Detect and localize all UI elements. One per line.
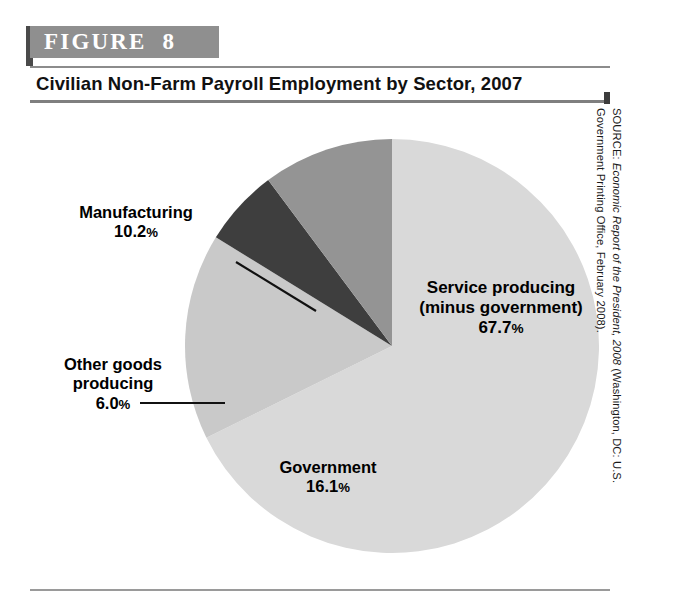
other-goods-value: 6.0% bbox=[18, 394, 208, 413]
source-note: SOURCE: Economic Report of the President… bbox=[582, 108, 624, 578]
figure-banner: FIGURE 8 bbox=[30, 26, 219, 58]
figure-title: Civilian Non-Farm Payroll Employment by … bbox=[36, 70, 606, 98]
footer-rule bbox=[30, 589, 610, 591]
other-goods-name-line1: Other goods bbox=[18, 355, 208, 374]
other-goods-name-line2: producing bbox=[18, 374, 208, 393]
manufacturing-name: Manufacturing bbox=[36, 203, 236, 222]
source-line2: Government Printing Office, February 200… bbox=[595, 108, 607, 333]
government-value: 16.1% bbox=[248, 477, 408, 496]
source-rest: (Washington, DC: U.S. bbox=[611, 365, 623, 483]
government-name: Government bbox=[248, 458, 408, 477]
figure-number-label: FIGURE 8 bbox=[30, 29, 176, 55]
title-right-tab bbox=[604, 92, 610, 104]
slice-label-manufacturing: Manufacturing 10.2% bbox=[36, 203, 236, 242]
title-rule-bottom bbox=[30, 100, 610, 103]
slice-label-government: Government 16.1% bbox=[248, 458, 408, 497]
slice-label-other-goods: Other goods producing 6.0% bbox=[18, 355, 208, 413]
figure-page: FIGURE 8 Civilian Non-Farm Payroll Emplo… bbox=[0, 0, 675, 605]
manufacturing-value: 10.2% bbox=[36, 222, 236, 241]
source-prefix: SOURCE: bbox=[611, 108, 623, 163]
source-title: Economic Report of the President, 2008 bbox=[611, 163, 623, 365]
title-rule-top bbox=[30, 66, 610, 68]
